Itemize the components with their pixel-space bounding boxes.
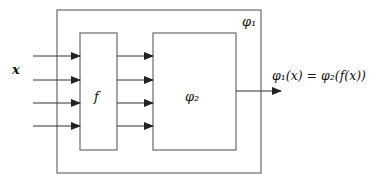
outer-box-phi1 [57, 10, 261, 173]
block-diagram: φ₁ f φ₂ x φ₁(x) = φ₂(f(x)) [0, 0, 378, 183]
phi2-box-label: φ₂ [185, 89, 199, 104]
output-equation: φ₁(x) = φ₂(f(x)) [272, 68, 366, 83]
internal-arrows [117, 56, 153, 126]
input-label: x [11, 62, 20, 77]
f-box-label: f [93, 89, 101, 104]
outer-box-label: φ₁ [242, 14, 256, 29]
